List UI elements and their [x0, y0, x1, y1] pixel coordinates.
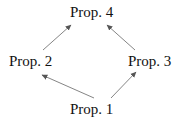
node-prop-3: Prop. 3	[128, 53, 171, 69]
arrow-p2-to-p4	[43, 25, 71, 50]
arrow-p3-to-p4	[107, 25, 135, 50]
node-prop-2: Prop. 2	[9, 53, 52, 69]
arrow-p1-to-p3	[111, 72, 136, 98]
arrow-p1-to-p2	[42, 75, 94, 98]
node-prop-4: Prop. 4	[70, 4, 113, 20]
node-prop-1: Prop. 1	[70, 101, 113, 117]
